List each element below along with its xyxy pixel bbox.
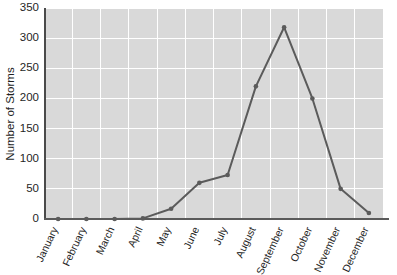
y-tick-label: 50 [26,182,39,194]
y-tick-label: 100 [20,152,39,164]
x-tick-label-august: August [233,225,258,260]
storms-line-chart: 350 300 250 200 150 100 50 0 Number of S… [0,0,397,275]
y-tick-label: 300 [20,31,39,43]
data-point-march [112,217,117,222]
x-tick-label-december: December [339,224,371,273]
y-axis-tick-labels: 350 300 250 200 150 100 50 0 [20,1,39,224]
data-point-august [254,84,259,89]
chart-canvas: 350 300 250 200 150 100 50 0 Number of S… [0,0,397,275]
x-axis-tick-labels: January February March April May June Ju… [33,224,371,275]
data-point-september [282,25,287,30]
data-point-june [197,181,202,186]
x-tick-label-june: June [181,225,202,251]
y-tick-label: 350 [20,1,39,13]
data-point-november [338,187,343,192]
x-tick-label-november: November [311,224,343,273]
data-point-february [84,217,89,222]
x-tick-label-may: May [154,224,174,248]
data-point-july [225,173,230,178]
x-tick-label-april: April [125,225,145,249]
x-tick-label-september: September [253,224,286,275]
data-point-january [56,217,61,222]
data-point-october [310,96,315,101]
data-point-april [141,216,146,221]
y-tick-label: 250 [20,61,39,73]
x-tick-label-march: March [93,225,116,257]
data-point-may [169,206,174,211]
data-point-december [367,211,372,216]
x-tick-label-july: July [211,224,230,247]
y-axis-title: Number of Storms [4,67,16,161]
y-tick-label: 0 [33,212,39,224]
y-tick-label: 150 [20,122,39,134]
y-tick-label: 200 [20,91,39,103]
x-tick-label-january: January [33,224,60,264]
x-tick-label-february: February [60,224,89,268]
x-tick-label-october: October [288,224,315,263]
